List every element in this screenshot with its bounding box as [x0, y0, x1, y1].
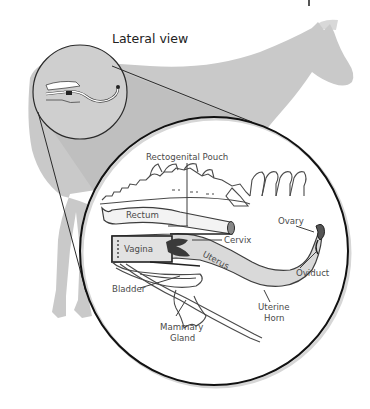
locator-circle — [33, 45, 127, 139]
label-uterine-horn-line2: Horn — [264, 313, 285, 323]
horse-reproductive-anatomy-figure: Rectogenital Pouch Rectum Vagina Cervix … — [0, 0, 370, 409]
label-bladder: Bladder — [112, 284, 146, 294]
label-cervix: Cervix — [224, 235, 251, 245]
magnified-circle: Rectogenital Pouch Rectum Vagina Cervix … — [80, 117, 350, 387]
label-uterine-horn-line1: Uterine — [258, 302, 290, 312]
label-mammary-gland-line1: Mammary — [160, 322, 203, 332]
label-mammary-gland-line2: Gland — [170, 333, 195, 343]
label-rectogenital-pouch: Rectogenital Pouch — [146, 152, 228, 162]
label-ovary: Ovary — [278, 216, 304, 226]
label-vagina: Vagina — [124, 244, 153, 254]
figure-title: Lateral view — [112, 31, 188, 46]
cropped-text-fragment — [308, 0, 310, 6]
label-rectum: Rectum — [126, 210, 159, 220]
label-oviduct: Oviduct — [296, 268, 330, 278]
